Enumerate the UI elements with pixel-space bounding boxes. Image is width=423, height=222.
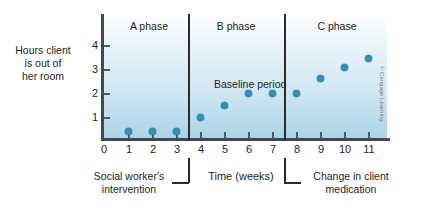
data-point[interactable] (245, 90, 252, 97)
data-point[interactable] (365, 55, 372, 62)
annotation-baseline-period: Baseline period (214, 78, 286, 90)
x-tick-5 (224, 132, 226, 139)
x-tick-label-10: 10 (336, 143, 354, 155)
y-axis-title-line-3: her room (2, 70, 84, 83)
data-point[interactable] (293, 90, 300, 97)
x-tick-label-9: 9 (312, 143, 330, 155)
x-tick-4 (200, 132, 202, 139)
x-tick-label-8: 8 (288, 143, 306, 155)
phase-title-c: C phase (288, 20, 386, 32)
data-point[interactable] (317, 75, 324, 82)
copyright-credit: © Cengage Learning (379, 66, 385, 121)
data-point[interactable] (125, 128, 132, 135)
annotation-social-worker-intervention: Social worker's intervention (86, 170, 172, 196)
phase-divider-a-b (188, 14, 190, 141)
x-tick-label-4: 4 (192, 143, 210, 155)
y-tick-label-1: 1 (84, 111, 98, 123)
phase-title-a: A phase (112, 20, 186, 32)
annotation-medication-line-2: medication (300, 183, 402, 196)
leader-line-left-vertical (188, 158, 190, 183)
x-tick-11 (368, 132, 370, 139)
annotation-social-worker-line-1: Social worker's (86, 170, 172, 183)
x-axis-line (101, 138, 390, 141)
leader-line-right-horizontal (284, 182, 301, 184)
y-axis-line (101, 14, 104, 141)
x-tick-7 (272, 132, 274, 139)
data-point[interactable] (149, 128, 156, 135)
x-tick-label-2: 2 (144, 143, 162, 155)
data-point[interactable] (269, 90, 276, 97)
x-tick-8 (296, 132, 298, 139)
y-axis-title: Hours client is out of her room (2, 44, 84, 83)
data-point[interactable] (197, 114, 204, 121)
x-tick-label-7: 7 (264, 143, 282, 155)
phase-divider-b-c (284, 14, 286, 141)
phase-title-b: B phase (192, 20, 280, 32)
y-tick-3 (104, 69, 110, 71)
leader-line-left-horizontal (172, 182, 189, 184)
data-point[interactable] (173, 128, 180, 135)
annotation-social-worker-line-2: intervention (86, 183, 172, 196)
y-tick-label-3: 3 (84, 63, 98, 75)
y-tick-4 (104, 45, 110, 47)
y-tick-2 (104, 93, 110, 95)
y-tick-label-2: 2 (84, 87, 98, 99)
data-point[interactable] (221, 102, 228, 109)
x-tick-label-1: 1 (120, 143, 138, 155)
x-tick-9 (320, 132, 322, 139)
x-tick-label-3: 3 (168, 143, 186, 155)
x-tick-label-0: 0 (95, 143, 113, 155)
x-tick-label-5: 5 (216, 143, 234, 155)
x-tick-label-11: 11 (360, 143, 378, 155)
leader-line-right-vertical (284, 158, 286, 183)
x-tick-10 (344, 132, 346, 139)
annotation-change-in-client-medication: Change in client medication (300, 170, 402, 196)
figure-container: Hours client is out of her room Baseline… (0, 0, 423, 222)
annotation-medication-line-1: Change in client (300, 170, 402, 183)
y-axis-title-line-1: Hours client (2, 44, 84, 57)
y-axis-title-line-2: is out of (2, 57, 84, 70)
y-tick-label-4: 4 (84, 39, 98, 51)
y-tick-1 (104, 117, 110, 119)
x-tick-6 (248, 132, 250, 139)
plot-area: Baseline period (104, 16, 387, 139)
x-axis-title: Time (weeks) (186, 170, 296, 182)
x-tick-label-6: 6 (240, 143, 258, 155)
data-point[interactable] (341, 64, 348, 71)
